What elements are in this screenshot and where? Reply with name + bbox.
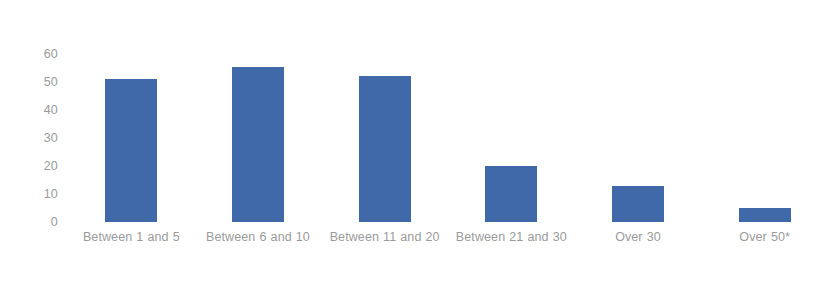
bar-band	[575, 24, 702, 222]
bar[interactable]	[232, 67, 284, 222]
x-axis-tick-label: Between 11 and 20	[321, 228, 448, 247]
y-axis: 0102030405060	[0, 24, 58, 222]
x-axis-tick-label: Between 6 and 10	[195, 228, 322, 247]
bar[interactable]	[359, 76, 411, 222]
bar-band	[195, 24, 322, 222]
y-axis-tick-label: 30	[0, 132, 58, 145]
y-axis-tick-label: 50	[0, 76, 58, 89]
bar[interactable]	[105, 79, 157, 222]
x-axis-tick-label: Over 50*	[701, 228, 828, 247]
bar-band	[448, 24, 575, 222]
bar[interactable]	[612, 186, 664, 222]
bar-band	[701, 24, 828, 222]
bar-chart: 0102030405060 Between 1 and 5Between 6 a…	[0, 0, 839, 286]
y-axis-tick-label: 40	[0, 104, 58, 117]
bar[interactable]	[739, 208, 791, 222]
bar[interactable]	[485, 166, 537, 222]
y-axis-tick-label: 0	[0, 216, 58, 229]
x-axis-tick-label: Between 21 and 30	[448, 228, 575, 247]
x-axis-tick-label: Between 1 and 5	[68, 228, 195, 247]
y-axis-tick-label: 60	[0, 48, 58, 61]
bar-band	[321, 24, 448, 222]
y-axis-tick-label: 20	[0, 160, 58, 173]
plot-area-bars	[68, 24, 828, 222]
y-axis-tick-label: 10	[0, 188, 58, 201]
x-axis: Between 1 and 5Between 6 and 10Between 1…	[68, 228, 828, 284]
bar-band	[68, 24, 195, 222]
x-axis-tick-label: Over 30	[575, 228, 702, 247]
